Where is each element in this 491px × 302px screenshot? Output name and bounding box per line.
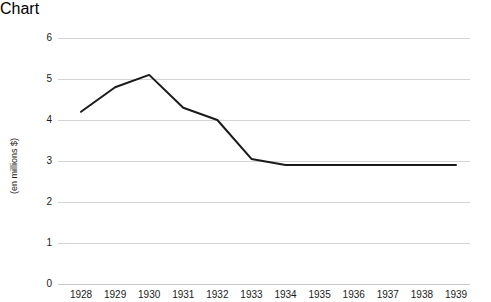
series-line xyxy=(58,38,470,284)
y-tick-label: 5 xyxy=(34,74,52,84)
y-tick-label: 6 xyxy=(34,33,52,43)
y-tick-label: 3 xyxy=(34,156,52,166)
x-tick-label: 1928 xyxy=(70,290,92,300)
y-tick-label: 4 xyxy=(34,115,52,125)
y-tick-label: 0 xyxy=(34,279,52,289)
x-tick-label: 1939 xyxy=(445,290,467,300)
x-tick-label: 1937 xyxy=(377,290,399,300)
y-tick-label: 1 xyxy=(34,238,52,248)
y-axis-title: (en millions $) xyxy=(6,78,22,253)
x-tick-label: 1930 xyxy=(138,290,160,300)
x-tick-label: 1936 xyxy=(343,290,365,300)
x-tick-label: 1934 xyxy=(274,290,296,300)
x-tick-label: 1932 xyxy=(206,290,228,300)
series-polyline xyxy=(81,75,456,165)
x-tick-label: 1938 xyxy=(411,290,433,300)
plot-area xyxy=(58,38,470,284)
x-tick-label: 1929 xyxy=(104,290,126,300)
y-axis-title-label: (en millions $) xyxy=(9,137,19,193)
gridline xyxy=(58,284,470,285)
x-tick-label: 1933 xyxy=(240,290,262,300)
line-chart: (en millions $) 0123456 1928192919301931… xyxy=(0,18,491,302)
y-axis-tick-labels: 0123456 xyxy=(24,18,52,302)
y-tick-label: 2 xyxy=(34,197,52,207)
x-tick-label: 1931 xyxy=(172,290,194,300)
x-tick-label: 1935 xyxy=(309,290,331,300)
x-axis-tick-labels: 1928192919301931193219331934193519361937… xyxy=(58,290,470,302)
